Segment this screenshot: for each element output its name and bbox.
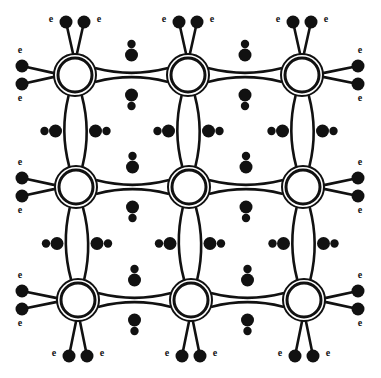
atom-core-inner (171, 58, 205, 92)
electron-dot (241, 40, 249, 48)
electron-dot (128, 274, 141, 287)
bond-vertical (195, 96, 200, 166)
bond-vertical (82, 96, 87, 166)
electron-dot (217, 239, 225, 247)
electron-dot (16, 60, 29, 73)
electron-dot (102, 127, 110, 135)
bond-vertical (83, 208, 88, 279)
electron-dot (352, 303, 365, 316)
electron-dot (329, 127, 337, 135)
electron-dot (215, 127, 223, 135)
atom-core-inner (59, 170, 93, 204)
electron-dot (130, 265, 138, 273)
bond-horizontal (99, 293, 170, 298)
electron-dot (352, 172, 365, 185)
electron-label: e (213, 347, 218, 358)
electron-dot (173, 16, 186, 29)
electron-dot (239, 49, 252, 62)
electron-dot (16, 172, 29, 185)
electron-label: e (324, 13, 329, 24)
bond-horizontal (209, 77, 281, 82)
electron-dot (63, 350, 76, 363)
electron-dot (40, 127, 48, 135)
electron-label: e (18, 44, 23, 55)
electron-dot (243, 327, 251, 335)
bond-vertical (64, 96, 69, 166)
bond-horizontal (97, 189, 168, 194)
electron-label: e (326, 347, 331, 358)
atom-core-inner (172, 170, 206, 204)
atom-core-inner (58, 58, 92, 92)
bond-vertical (291, 96, 296, 166)
bond-vertical (309, 96, 314, 166)
electron-label: e (18, 92, 23, 103)
electron-dot (194, 350, 207, 363)
electron-dot (242, 152, 250, 160)
electron-dot (240, 201, 253, 214)
cores-layer (54, 54, 325, 321)
electron-label: e (97, 13, 102, 24)
bond-horizontal (212, 293, 283, 298)
electron-dot (153, 127, 161, 135)
electron-dot (241, 102, 249, 110)
bond-horizontal (210, 180, 282, 185)
electron-label: e (165, 347, 170, 358)
bond-vertical (177, 96, 182, 166)
electron-dot (191, 16, 204, 29)
electron-dot (352, 285, 365, 298)
bond-horizontal (212, 302, 283, 307)
atom-core-inner (287, 283, 321, 317)
electron-dot (352, 190, 365, 203)
electron-label: e (210, 13, 215, 24)
electron-dot (125, 49, 138, 62)
electron-dot (204, 237, 217, 250)
electron-dot (42, 239, 50, 247)
electron-dot (128, 214, 136, 222)
electron-dot (352, 78, 365, 91)
electron-dot (307, 350, 320, 363)
electron-dot (277, 237, 290, 250)
electron-dot (125, 89, 138, 102)
atom-core-inner (286, 170, 320, 204)
electron-label: e (278, 347, 283, 358)
electron-dot (239, 89, 252, 102)
electron-dot (128, 152, 136, 160)
electron-label: e (276, 13, 281, 24)
electron-dot (126, 201, 139, 214)
electron-dot (287, 16, 300, 29)
electron-label: e (49, 13, 54, 24)
electron-dot (243, 265, 251, 273)
electron-dot (16, 303, 29, 316)
electron-label: e (18, 317, 23, 328)
electron-dot (289, 350, 302, 363)
bond-vertical (292, 208, 297, 279)
electron-dot (130, 327, 138, 335)
electron-dot (164, 237, 177, 250)
electron-dot (202, 125, 215, 138)
lattice-svg: eeeeeeeeeeeeeeeeeeeeeeee (0, 0, 381, 378)
electron-label: e (358, 317, 363, 328)
electron-dot (268, 239, 276, 247)
electron-dot (51, 237, 64, 250)
bond-horizontal (210, 189, 282, 194)
electron-dot (162, 125, 175, 138)
electron-label: e (358, 204, 363, 215)
electron-dot (127, 102, 135, 110)
electron-label: e (18, 204, 23, 215)
bond-horizontal (99, 302, 170, 307)
electron-dot (276, 125, 289, 138)
electron-dot (330, 239, 338, 247)
electron-label: e (18, 156, 23, 167)
electron-dot (91, 237, 104, 250)
bond-vertical (310, 208, 315, 279)
electron-label: e (100, 347, 105, 358)
bond-horizontal (96, 68, 167, 73)
electron-dot (352, 60, 365, 73)
bond-vertical (196, 208, 201, 279)
bond-horizontal (209, 68, 281, 73)
atom-core-inner (61, 283, 95, 317)
bond-vertical (179, 208, 184, 279)
electron-dot (89, 125, 102, 138)
electron-dot (16, 190, 29, 203)
electron-dot (127, 40, 135, 48)
